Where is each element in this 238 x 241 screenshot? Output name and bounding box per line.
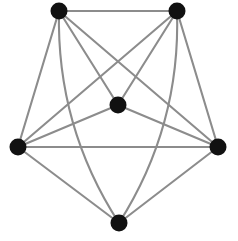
graph-edge-center-left bbox=[18, 105, 118, 147]
graph-edge-top-right-center bbox=[118, 11, 177, 105]
graph-vertex-top-right bbox=[169, 3, 186, 20]
graph-figure bbox=[0, 0, 238, 241]
edge-layer bbox=[18, 11, 218, 223]
graph-vertex-bottom bbox=[111, 215, 128, 232]
graph-canvas bbox=[0, 0, 238, 241]
graph-edge-top-left-right bbox=[59, 11, 218, 147]
graph-edge-right-bottom bbox=[119, 147, 218, 223]
graph-vertex-center bbox=[110, 97, 127, 114]
graph-edge-left-bottom bbox=[18, 147, 119, 223]
graph-edge-top-left-left bbox=[18, 11, 59, 147]
vertex-layer bbox=[10, 3, 227, 232]
graph-edge-top-right-right bbox=[177, 11, 218, 147]
graph-edge-top-right-left bbox=[18, 11, 177, 147]
graph-vertex-top-left bbox=[51, 3, 68, 20]
graph-vertex-left bbox=[10, 139, 27, 156]
graph-vertex-right bbox=[210, 139, 227, 156]
graph-edge-top-left-center bbox=[59, 11, 118, 105]
